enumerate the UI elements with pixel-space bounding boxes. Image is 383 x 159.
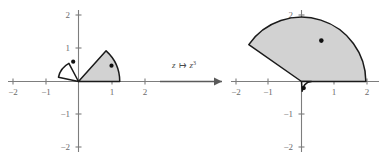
ytick-label-left-3: −2 — [60, 142, 70, 152]
region-open-sector-left — [58, 63, 78, 81]
xtick-label-left-0: −2 — [8, 87, 18, 97]
map-arrow-group: z↦z3 — [160, 60, 222, 86]
xtick-label-left-1: −1 — [41, 87, 51, 97]
map-label-var: z — [171, 60, 176, 70]
xtick-label-left-2: 1 — [110, 87, 115, 97]
xtick-label-right-0: −2 — [231, 87, 241, 97]
point-in-shaded-sector-left — [109, 64, 113, 68]
region-shaded-sector-left — [79, 51, 120, 82]
ytick-label-right-2: −1 — [283, 109, 293, 119]
xtick-label-right-2: 1 — [332, 87, 337, 97]
complex-map-figure: −2 −1 1 2 2 1 −1 −2 z↦z3 — [0, 0, 383, 159]
ytick-label-left-1: 1 — [66, 43, 71, 53]
map-label-exponent: 3 — [193, 60, 196, 66]
xtick-label-left-3: 2 — [143, 87, 148, 97]
ytick-label-left-0: 2 — [66, 10, 71, 20]
point-in-shaded-sector-right — [319, 38, 324, 43]
point-in-open-sector-right — [302, 86, 306, 90]
panel-domain-plane: −2 −1 1 2 2 1 −1 −2 — [8, 10, 160, 152]
map-label-mapsto: ↦ — [179, 60, 187, 70]
map-label: z↦z3 — [171, 60, 196, 71]
region-shaded-sector-right — [249, 17, 366, 81]
ytick-label-left-2: −1 — [60, 109, 70, 119]
ytick-label-right-3: −2 — [283, 142, 293, 152]
figure-canvas: −2 −1 1 2 2 1 −1 −2 z↦z3 — [0, 0, 383, 159]
xtick-label-right-3: 2 — [365, 87, 370, 97]
point-in-open-sector-left — [71, 60, 75, 64]
panel-image-plane: −2 −1 1 2 2 1 −1 −2 — [231, 10, 379, 152]
map-arrow-head — [214, 78, 222, 86]
xtick-label-right-1: −1 — [263, 87, 273, 97]
